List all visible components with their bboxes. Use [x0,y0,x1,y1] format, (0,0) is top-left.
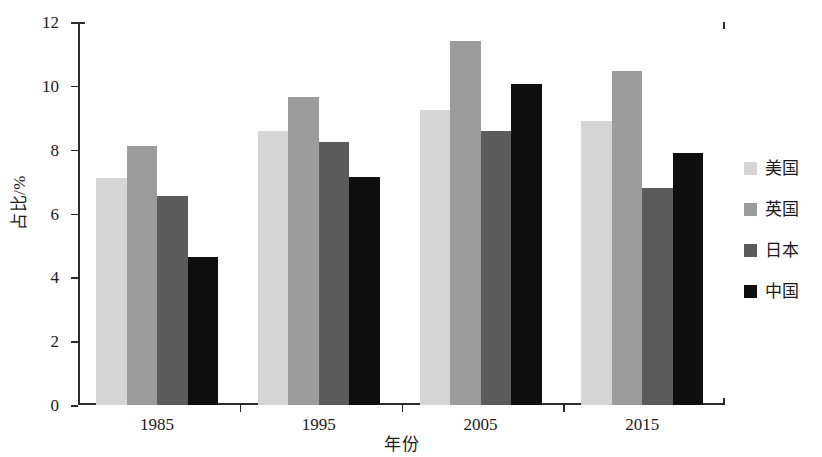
legend-swatch-icon [744,244,757,257]
y-axis-title: 占比/% [2,0,32,405]
legend-swatch-icon [744,285,757,298]
y-axis-tick: 12 [71,22,78,24]
bar [642,188,673,405]
legend-item-label: 中国 [765,283,799,300]
bar [288,97,319,405]
frame-cap-bottom-right [723,398,725,405]
legend-item[interactable]: 日本 [744,230,820,271]
bar [511,84,542,405]
bar [349,177,380,405]
bar [188,257,219,405]
x-axis-tick [240,405,242,412]
legend-item[interactable]: 英国 [744,189,820,230]
x-axis-tick [563,405,565,412]
bar [481,131,512,405]
frame-cap-top-left [78,22,85,24]
bar [157,196,188,405]
bar [673,153,704,405]
legend-swatch-icon [744,162,757,175]
y-axis-tick: 4 [71,277,78,279]
y-axis-tick: 8 [71,150,78,152]
bar [420,110,451,405]
y-axis-tick: 0 [71,405,78,407]
y-axis-tick-label: 6 [51,205,60,222]
y-axis-tick: 10 [71,86,78,88]
y-axis-tick: 6 [71,214,78,216]
legend-item-label: 美国 [765,160,799,177]
bar [319,142,350,405]
bar [127,146,158,405]
x-axis-title: 年份 [78,430,725,455]
bar [612,71,643,405]
y-axis-tick-label: 12 [42,14,59,31]
legend-item-label: 英国 [765,201,799,218]
legend-item[interactable]: 中国 [744,271,820,312]
bar [581,121,612,405]
y-axis-tick: 2 [71,341,78,343]
legend-item[interactable]: 美国 [744,148,820,189]
bar [258,131,289,405]
plot-area: 024681012 1985199520052015 [78,22,725,405]
bar [450,41,481,405]
y-axis-tick-label: 4 [51,269,60,286]
legend-item-label: 日本 [765,242,799,259]
y-axis-tick-label: 8 [51,141,60,158]
bar-chart: 占比/% 024681012 1985199520052015 年份 美国英国日… [0,0,822,457]
frame-cap-top-right [723,22,725,29]
y-axis-tick-label: 10 [42,77,59,94]
legend-swatch-icon [744,203,757,216]
bar [96,178,127,405]
y-axis-tick-label: 2 [51,333,60,350]
legend: 美国英国日本中国 [744,148,820,312]
y-axis-line [78,22,80,405]
y-axis-tick-label: 0 [51,397,60,414]
y-axis-title-label: 占比/% [5,175,30,230]
x-axis-tick [402,405,404,412]
